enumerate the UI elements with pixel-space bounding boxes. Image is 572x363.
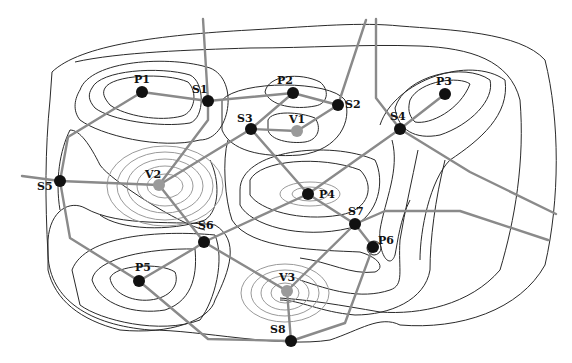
peak-marker-icon — [136, 86, 148, 98]
saddle-marker-icon — [285, 335, 297, 347]
saddle-marker-icon — [54, 175, 66, 187]
node-label: S4 — [390, 110, 406, 123]
contour-diagram: P1P2P3P4P5P6V1V2V3S1S2S3S4S5S6S7S8 — [0, 0, 572, 363]
node-label: P5 — [135, 261, 151, 274]
peak-marker-icon — [133, 275, 145, 287]
node-label: V3 — [278, 271, 295, 284]
node-label: P4 — [319, 188, 335, 201]
peak-marker-icon — [287, 87, 299, 99]
valley-marker-icon — [291, 125, 303, 137]
peak-node-p4: P4 — [302, 188, 335, 201]
node-label: P3 — [436, 75, 452, 88]
node-label: S3 — [237, 112, 253, 125]
node-label: P2 — [277, 74, 293, 87]
valley-marker-icon — [281, 285, 293, 297]
peak-marker-icon — [302, 188, 314, 200]
peak-marker-icon — [439, 88, 451, 100]
saddle-marker-icon — [202, 95, 214, 107]
node-label: P6 — [378, 234, 394, 247]
node-label: S2 — [345, 98, 361, 111]
node-label: S8 — [270, 323, 286, 336]
node-label: S1 — [192, 83, 208, 96]
saddle-marker-icon — [198, 236, 210, 248]
saddle-marker-icon — [394, 123, 406, 135]
node-label: V1 — [288, 113, 305, 126]
saddle-marker-icon — [349, 218, 361, 230]
node-label: S6 — [198, 219, 214, 232]
node-label: S5 — [37, 180, 53, 193]
saddle-marker-icon — [332, 99, 344, 111]
node-label: V2 — [144, 168, 161, 181]
node-label: S7 — [348, 205, 364, 218]
node-label: P1 — [134, 73, 150, 86]
saddle-node-s2: S2 — [332, 98, 361, 111]
